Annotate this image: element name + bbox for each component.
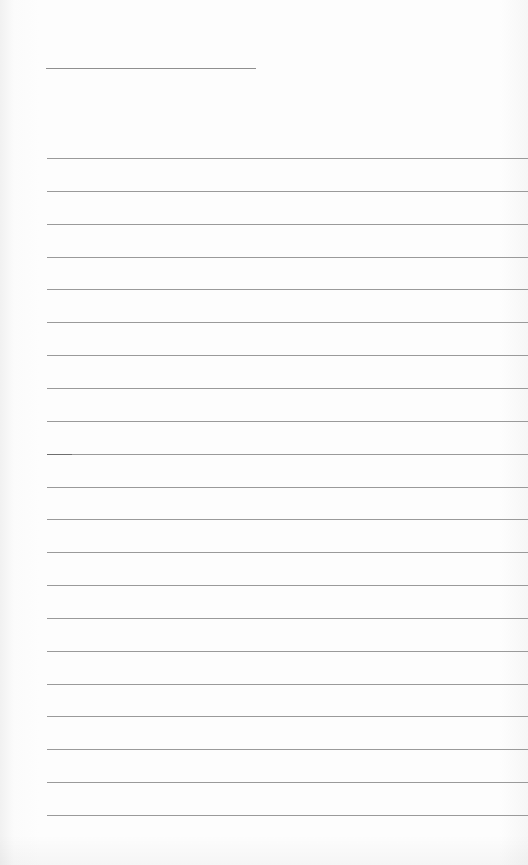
ruled-line <box>47 355 528 356</box>
lined-paper-page <box>0 0 528 865</box>
ruled-line <box>47 487 528 488</box>
ruled-line <box>47 388 528 389</box>
ruled-line <box>47 322 528 323</box>
ruled-line <box>47 421 528 422</box>
ruled-line <box>47 749 528 750</box>
ruled-line <box>47 716 528 717</box>
ruled-line <box>47 454 528 455</box>
ruled-line <box>47 815 528 816</box>
ruled-line <box>47 519 528 520</box>
ruled-line <box>47 191 528 192</box>
ruled-line <box>47 618 528 619</box>
ruled-line <box>47 651 528 652</box>
ruled-line <box>47 289 528 290</box>
ruled-line <box>47 158 528 159</box>
ruled-line <box>47 552 528 553</box>
title-underline <box>46 68 256 69</box>
ruled-line <box>47 257 528 258</box>
ruled-line <box>47 585 528 586</box>
ruled-line <box>47 782 528 783</box>
ruled-line <box>47 684 528 685</box>
ruled-line <box>47 224 528 225</box>
